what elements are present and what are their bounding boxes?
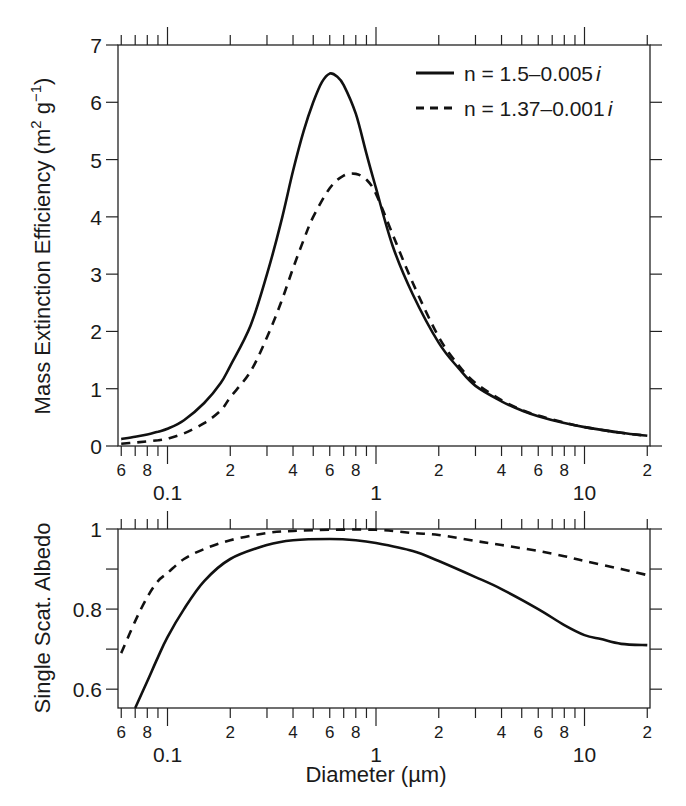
x-minor-tick-label: 8: [560, 723, 569, 742]
y-tick-label: 0.8: [73, 598, 102, 621]
x-minor-tick-label: 6: [117, 461, 126, 480]
legend-solid-label: n = 1.5–0.005i: [464, 62, 602, 85]
y-tick-label: 1: [90, 378, 102, 401]
x-minor-tick-label: 2: [434, 461, 443, 480]
bottom-y-axis-title: Single Scat. Albedo: [30, 523, 55, 714]
y-tick-label: 5: [90, 149, 102, 172]
x-minor-tick-label: 4: [288, 461, 297, 480]
y-tick-label: 7: [90, 34, 102, 57]
x-major-tick-label: 0.1: [153, 743, 182, 766]
x-major-tick-label: 1: [370, 481, 382, 504]
x-major-tick-label: 10: [573, 743, 596, 766]
x-minor-tick-label: 2: [643, 723, 652, 742]
x-minor-tick-label: 8: [351, 723, 360, 742]
y-tick-label: 1: [90, 518, 102, 541]
x-minor-tick-label: 6: [117, 723, 126, 742]
plot-frame: [118, 529, 650, 708]
x-minor-tick-label: 8: [143, 723, 152, 742]
x-minor-tick-label: 8: [143, 461, 152, 480]
x-major-tick-label: 10: [573, 481, 596, 504]
series-solid-line: [121, 73, 647, 439]
y-tick-label: 2: [90, 320, 102, 343]
series-dashed-line: [121, 530, 647, 654]
x-minor-tick-label: 2: [226, 723, 235, 742]
bottom-panel: 682468246820.11100.60.81: [73, 511, 662, 766]
x-minor-tick-label: 6: [325, 461, 334, 480]
x-minor-tick-label: 2: [434, 723, 443, 742]
series-solid-line: [135, 539, 647, 708]
y-tick-label: 0.6: [73, 678, 102, 701]
legend-dashed-label: n = 1.37–0.001i: [464, 97, 614, 120]
y-tick-label: 6: [90, 91, 102, 114]
x-minor-tick-label: 4: [288, 723, 297, 742]
x-minor-tick-label: 6: [325, 723, 334, 742]
x-minor-tick-label: 6: [534, 723, 543, 742]
x-axis-title: Diameter (µm): [305, 762, 446, 787]
chart: 682468246820.111001234567 682468246820.1…: [0, 0, 686, 806]
y-tick-label: 4: [90, 206, 102, 229]
x-minor-tick-label: 4: [497, 723, 506, 742]
x-minor-tick-label: 8: [351, 461, 360, 480]
series-dashed-line: [121, 173, 647, 443]
y-tick-label: 3: [90, 263, 102, 286]
top-y-axis-title: Mass Extinction Efficiency (m2 g−1): [27, 78, 55, 415]
x-minor-tick-label: 4: [497, 461, 506, 480]
x-major-tick-label: 0.1: [153, 481, 182, 504]
y-tick-label: 0: [90, 435, 102, 458]
x-minor-tick-label: 6: [534, 461, 543, 480]
x-minor-tick-label: 2: [226, 461, 235, 480]
x-minor-tick-label: 2: [643, 461, 652, 480]
x-minor-tick-label: 8: [560, 461, 569, 480]
legend: n = 1.5–0.005i n = 1.37–0.001i: [416, 62, 614, 120]
